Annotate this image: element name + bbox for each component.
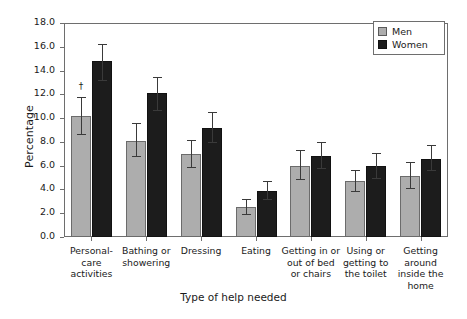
error-bar-cap-upper (317, 142, 326, 143)
error-bar-cap-upper (208, 112, 217, 113)
error-bar-cap-lower (317, 168, 326, 169)
x-category-label-line: Eating (226, 245, 287, 257)
bar-chart-figure: Percentage 0.02.04.06.08.010.012.014.016… (0, 0, 467, 319)
y-tick-label: 8.0 (40, 135, 55, 146)
y-tick-label: 2.0 (40, 206, 55, 217)
error-bar-line (321, 142, 322, 168)
error-bar-cap-lower (98, 80, 107, 81)
x-category-label-line: Getting (390, 245, 451, 257)
significance-marker: † (75, 82, 87, 91)
error-bar-line (191, 140, 192, 167)
error-bar-line (157, 77, 158, 110)
error-bar-cap-upper (132, 123, 141, 124)
y-tick-label: 4.0 (40, 182, 55, 193)
error-bar-line (355, 170, 356, 190)
x-category-label-line: home (390, 280, 451, 292)
x-category-label-0: Personal-careactivities (61, 245, 122, 280)
x-tick-mark (146, 237, 147, 241)
x-tick-mark (311, 237, 312, 241)
legend-item-women: Women (378, 38, 439, 51)
error-bar-cap-lower (208, 142, 217, 143)
x-category-label-line: getting to (335, 257, 396, 269)
error-bar-cap-lower (372, 178, 381, 179)
x-category-label-line: Using or (335, 245, 396, 257)
y-tick-mark (60, 71, 64, 72)
x-category-label-line: Getting in or (280, 245, 341, 257)
error-bar-line (267, 181, 268, 199)
bar-women-0 (92, 61, 112, 237)
y-tick-label: 0.0 (40, 230, 55, 241)
y-tick-mark (60, 189, 64, 190)
error-bar-line (376, 153, 377, 178)
x-category-label-4: Getting in orout of bedor chairs (280, 245, 341, 280)
x-category-label-line: Bathing or (116, 245, 177, 257)
error-bar-line (410, 162, 411, 188)
x-category-label-line: Personal- (61, 245, 122, 257)
x-category-label-5: Using orgetting tothe toilet (335, 245, 396, 280)
error-bar-line (246, 199, 247, 214)
x-tick-mark (366, 237, 367, 241)
y-tick-mark (60, 47, 64, 48)
x-category-label-3: Eating (226, 245, 287, 257)
y-tick-mark (60, 166, 64, 167)
error-bar-cap-upper (296, 150, 305, 151)
y-tick-label: 16.0 (34, 40, 55, 51)
error-bar-cap-lower (187, 167, 196, 168)
error-bar-cap-lower (153, 110, 162, 111)
error-bar-cap-lower (242, 214, 251, 215)
error-bar-cap-lower (406, 188, 415, 189)
x-tick-mark (421, 237, 422, 241)
error-bar-cap-upper (77, 97, 86, 98)
error-bar-cap-upper (351, 170, 360, 171)
error-bar-cap-upper (98, 44, 107, 45)
x-category-label-line: inside the (390, 268, 451, 280)
x-category-label-line: around (390, 257, 451, 269)
x-category-label-line: the toilet (335, 268, 396, 280)
error-bar-line (81, 97, 82, 134)
error-bar-cap-upper (406, 162, 415, 163)
error-bar-cap-upper (427, 145, 436, 146)
error-bar-cap-lower (132, 156, 141, 157)
x-category-label-line: activities (61, 268, 122, 280)
x-category-label-2: Dressing (171, 245, 232, 257)
error-bar-cap-lower (263, 199, 272, 200)
error-bar-cap-lower (351, 191, 360, 192)
x-tick-mark (91, 237, 92, 241)
error-bar-cap-lower (77, 134, 86, 135)
y-tick-mark (60, 142, 64, 143)
bar-women-2 (202, 128, 222, 237)
y-tick-mark (60, 237, 64, 238)
y-tick-mark (60, 23, 64, 24)
y-tick-label: 12.0 (34, 87, 55, 98)
x-category-label-6: Gettingaroundinside thehome (390, 245, 451, 291)
y-tick-mark (60, 94, 64, 95)
x-category-label-line: out of bed (280, 257, 341, 269)
y-tick-label: 6.0 (40, 159, 55, 170)
x-category-label-line: care (61, 257, 122, 269)
error-bar-cap-upper (242, 199, 251, 200)
error-bar-line (431, 145, 432, 170)
error-bar-cap-upper (372, 153, 381, 154)
error-bar-cap-lower (296, 179, 305, 180)
legend-label-women: Women (392, 39, 428, 50)
error-bar-cap-upper (153, 77, 162, 78)
y-tick-label: 10.0 (34, 111, 55, 122)
error-bar-line (136, 123, 137, 156)
error-bar-cap-upper (187, 140, 196, 141)
x-axis-title: Type of help needed (0, 291, 467, 303)
women-swatch-icon (378, 40, 387, 49)
x-category-label-line: or chairs (280, 268, 341, 280)
x-category-label-line: showering (116, 257, 177, 269)
bar-women-1 (147, 93, 167, 237)
x-category-label-1: Bathing orshowering (116, 245, 177, 268)
y-tick-label: 18.0 (34, 16, 55, 27)
chart-legend: Men Women (373, 21, 445, 55)
x-category-label-line: Dressing (171, 245, 232, 257)
error-bar-line (212, 112, 213, 142)
legend-label-men: Men (392, 26, 412, 37)
error-bar-cap-lower (427, 170, 436, 171)
y-tick-label: 14.0 (34, 64, 55, 75)
y-tick-mark (60, 118, 64, 119)
x-tick-mark (256, 237, 257, 241)
error-bar-line (102, 44, 103, 80)
